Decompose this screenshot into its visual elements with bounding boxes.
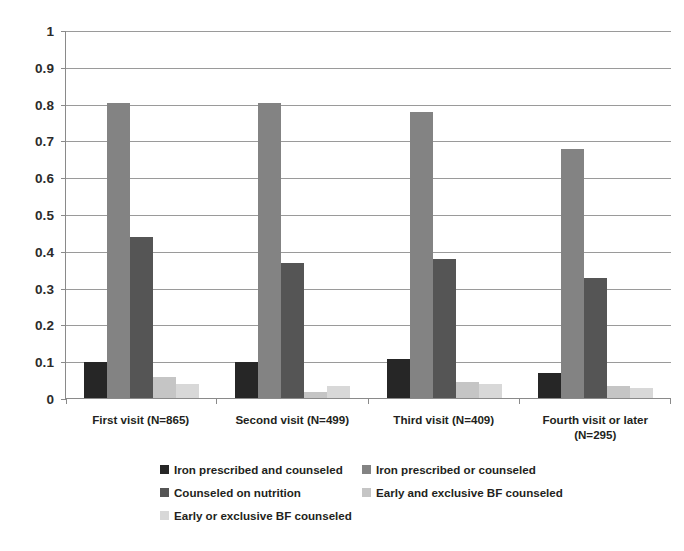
y-axis-tick-label: 1 [46, 24, 54, 39]
bar[interactable] [258, 103, 281, 399]
plot-area [65, 31, 671, 399]
y-axis-tick-label: 0.6 [35, 171, 54, 186]
legend-swatch-icon [160, 511, 169, 520]
legend-item[interactable]: Early and exclusive BF counseled [362, 486, 570, 499]
x-axis-tick-mark [216, 399, 217, 404]
bar[interactable] [387, 359, 410, 399]
legend-row: Counseled on nutritionEarly and exclusiv… [150, 481, 570, 504]
x-axis-category-label: First visit (N=865) [65, 412, 217, 442]
bar[interactable] [561, 149, 584, 399]
x-axis-tick-mark [66, 399, 67, 404]
y-axis-tick-label: 0.3 [35, 281, 54, 296]
bar[interactable] [84, 362, 107, 399]
legend-swatch-icon [362, 488, 371, 497]
bar-group-bars [84, 31, 199, 399]
bar[interactable] [456, 382, 479, 399]
bar[interactable] [281, 263, 304, 399]
bar-group [217, 31, 368, 399]
y-axis-tick-label: 0.5 [35, 208, 54, 223]
legend-row: Early or exclusive BF counseled [150, 504, 570, 527]
x-axis-label-line: (N=295) [522, 427, 670, 442]
legend-label: Counseled on nutrition [174, 486, 301, 499]
bar[interactable] [107, 103, 130, 399]
legend-item[interactable]: Iron prescribed or counseled [362, 463, 570, 476]
bar-group-bars [235, 31, 350, 399]
bar-group [520, 31, 671, 399]
bar[interactable] [235, 362, 258, 399]
x-axis-label-line: Second visit (N=499) [219, 412, 367, 427]
bar[interactable] [176, 384, 199, 399]
y-axis-tick-label: 0.9 [35, 60, 54, 75]
plot-area-wrapper: 10.90.80.70.60.50.40.30.20.10 [0, 0, 684, 410]
legend-item[interactable]: Counseled on nutrition [150, 486, 362, 499]
bar[interactable] [130, 237, 153, 399]
bar[interactable] [433, 259, 456, 399]
bar-group-bars [387, 31, 502, 399]
bar[interactable] [538, 373, 561, 399]
y-axis-tick-label: 0.4 [35, 244, 54, 259]
x-axis-category-label: Second visit (N=499) [217, 412, 369, 442]
legend-swatch-icon [160, 465, 169, 474]
legend-item[interactable]: Iron prescribed and counseled [150, 463, 362, 476]
legend-label: Iron prescribed and counseled [174, 463, 343, 476]
y-axis-tick-label: 0 [46, 392, 54, 407]
bar[interactable] [410, 112, 433, 399]
x-axis-tick-mark [670, 399, 671, 404]
y-axis-tick-label: 0.1 [35, 355, 54, 370]
legend-label: Iron prescribed or counseled [376, 463, 536, 476]
bar-group [369, 31, 520, 399]
x-axis-category-label: Fourth visit or later(N=295) [520, 412, 672, 442]
bar-group-bars [538, 31, 653, 399]
x-axis-category-labels: First visit (N=865)Second visit (N=499)T… [65, 412, 671, 442]
x-axis-tick-mark [368, 399, 369, 404]
x-axis-category-label: Third visit (N=409) [368, 412, 520, 442]
x-axis-tick-mark [519, 399, 520, 404]
x-axis-label-line: First visit (N=865) [67, 412, 215, 427]
bar-group [66, 31, 217, 399]
y-axis-tick-label: 0.7 [35, 134, 54, 149]
y-axis-tick-label: 0.2 [35, 318, 54, 333]
legend-item[interactable]: Early or exclusive BF counseled [150, 509, 362, 522]
bar-groups [66, 31, 671, 399]
legend-label: Early and exclusive BF counseled [376, 486, 563, 499]
bar[interactable] [479, 384, 502, 399]
x-axis-label-line: Fourth visit or later [522, 412, 670, 427]
legend-label: Early or exclusive BF counseled [174, 509, 352, 522]
bar[interactable] [153, 377, 176, 399]
y-axis-tick-label: 0.8 [35, 97, 54, 112]
x-axis-line [66, 398, 671, 399]
legend-swatch-icon [160, 488, 169, 497]
legend-swatch-icon [362, 465, 371, 474]
y-axis-tick-labels: 10.90.80.70.60.50.40.30.20.10 [0, 0, 63, 410]
bar[interactable] [584, 278, 607, 399]
bar-chart: 10.90.80.70.60.50.40.30.20.10 First visi… [0, 0, 684, 551]
legend-row: Iron prescribed and counseledIron prescr… [150, 458, 570, 481]
chart-legend: Iron prescribed and counseledIron prescr… [150, 458, 570, 527]
x-axis-label-line: Third visit (N=409) [370, 412, 518, 427]
